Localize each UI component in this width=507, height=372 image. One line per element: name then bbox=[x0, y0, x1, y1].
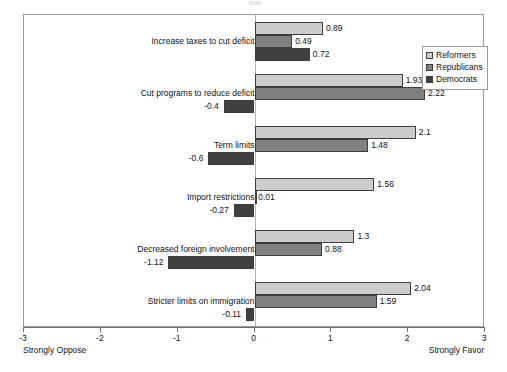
bar-row: 2.1 bbox=[24, 126, 483, 139]
bar-democrats bbox=[255, 48, 310, 61]
bar-group: 1.30.88-1.12 bbox=[24, 230, 483, 269]
axis-caption-strongly-favor: Strongly Favor bbox=[429, 345, 484, 356]
x-tick bbox=[407, 327, 408, 332]
bar-row: 0.89 bbox=[24, 22, 483, 35]
bar-republicans bbox=[255, 35, 293, 48]
bar-row: 0.72 bbox=[24, 48, 483, 61]
bar-reformers bbox=[255, 178, 375, 191]
bar-row: -0.6 bbox=[24, 152, 483, 165]
bar-row: -1.12 bbox=[24, 256, 483, 269]
legend-swatch-icon bbox=[426, 76, 433, 83]
bar-value-label: 2.1 bbox=[416, 126, 431, 139]
bar-reformers bbox=[255, 22, 323, 35]
legend-label: Republicans bbox=[436, 62, 483, 73]
bar-row: 1.3 bbox=[24, 230, 483, 243]
legend-label: Reformers bbox=[436, 50, 476, 61]
bar-value-label: 1.48 bbox=[368, 139, 388, 152]
bar-value-label: 0.88 bbox=[322, 243, 342, 256]
x-tick-label: 2 bbox=[405, 333, 410, 344]
bar-row: 1.56 bbox=[24, 178, 483, 191]
bar-row: 2.22 bbox=[24, 87, 483, 100]
bar-row: -0.11 bbox=[24, 308, 483, 321]
bar-value-label: 0.72 bbox=[310, 48, 330, 61]
legend-label: Democrats bbox=[436, 74, 477, 85]
chart-legend: ReformersRepublicansDemocrats bbox=[422, 46, 488, 90]
bar-value-label: 2.04 bbox=[411, 282, 431, 295]
bar-row: -0.4 bbox=[24, 100, 483, 113]
bar-group: 1.560.01-0.27 bbox=[24, 178, 483, 217]
x-tick bbox=[254, 327, 255, 332]
x-tick-label: -1 bbox=[173, 333, 181, 344]
bar-value-label: 1.93 bbox=[403, 74, 423, 87]
legend-swatch-icon bbox=[426, 64, 433, 71]
plot-area: Increase taxes to cut deficit0.890.490.7… bbox=[23, 14, 484, 327]
bar-value-label: 0.01 bbox=[255, 191, 275, 204]
x-tick bbox=[23, 327, 24, 332]
legend-item-republicans: Republicans bbox=[426, 62, 483, 73]
x-tick bbox=[100, 327, 101, 332]
bar-democrats bbox=[234, 204, 255, 217]
bar-reformers bbox=[255, 230, 355, 243]
legend-item-democrats: Democrats bbox=[426, 74, 483, 85]
bar-democrats bbox=[246, 308, 254, 321]
x-tick-label: -2 bbox=[96, 333, 104, 344]
bar-reformers bbox=[255, 126, 416, 139]
legend-swatch-icon bbox=[426, 52, 433, 59]
bar-group: 1.932.22-0.4 bbox=[24, 74, 483, 113]
bar-republicans bbox=[255, 139, 369, 152]
x-axis bbox=[23, 327, 484, 328]
bar-democrats bbox=[224, 100, 255, 113]
bar-value-label: 1.3 bbox=[354, 230, 369, 243]
bar-row: 1.59 bbox=[24, 295, 483, 308]
bar-reformers bbox=[255, 74, 403, 87]
bar-row: 1.93 bbox=[24, 74, 483, 87]
bar-row: 0.88 bbox=[24, 243, 483, 256]
bar-value-label: 1.56 bbox=[374, 178, 394, 191]
x-tick-label: 0 bbox=[251, 333, 256, 344]
bar-republicans bbox=[255, 295, 377, 308]
bar-value-label: 1.59 bbox=[377, 295, 397, 308]
axis-caption-strongly-oppose: Strongly Oppose bbox=[23, 345, 86, 356]
bar-group: 0.890.490.72 bbox=[24, 22, 483, 61]
x-tick bbox=[330, 327, 331, 332]
bar-group: 2.11.48-0.6 bbox=[24, 126, 483, 165]
bar-value-label: -1.12 bbox=[144, 256, 166, 269]
legend-item-reformers: Reformers bbox=[426, 50, 483, 61]
bar-value-label: -0.4 bbox=[204, 100, 222, 113]
x-tick bbox=[177, 327, 178, 332]
bar-republicans bbox=[255, 243, 323, 256]
x-tick-label: -3 bbox=[19, 333, 27, 344]
bar-republicans bbox=[255, 87, 426, 100]
bar-democrats bbox=[168, 256, 254, 269]
bar-row: 0.49 bbox=[24, 35, 483, 48]
x-tick bbox=[484, 327, 485, 332]
bar-value-label: -0.11 bbox=[222, 308, 244, 321]
bar-reformers bbox=[255, 282, 412, 295]
grouped-bar-chart: Increase taxes to cut deficit0.890.490.7… bbox=[0, 0, 507, 372]
bar-row: -0.27 bbox=[24, 204, 483, 217]
bar-value-label: 0.89 bbox=[323, 22, 343, 35]
bar-row: 0.01 bbox=[24, 191, 483, 204]
bar-value-label: -0.27 bbox=[209, 204, 231, 217]
zero-reference-line bbox=[255, 15, 256, 326]
bar-democrats bbox=[208, 152, 254, 165]
bar-row: 2.04 bbox=[24, 282, 483, 295]
bar-group: 2.041.59-0.11 bbox=[24, 282, 483, 321]
scan-artifact bbox=[249, 1, 261, 5]
x-tick-label: 1 bbox=[328, 333, 333, 344]
bar-row: 1.48 bbox=[24, 139, 483, 152]
bar-value-label: -0.6 bbox=[189, 152, 207, 165]
x-tick-label: 3 bbox=[482, 333, 487, 344]
bar-value-label: 0.49 bbox=[292, 35, 312, 48]
